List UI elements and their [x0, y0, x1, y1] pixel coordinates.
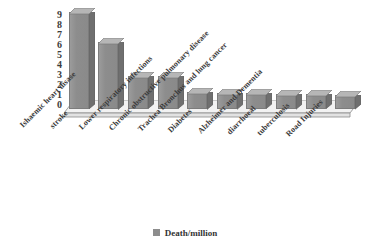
x-axis-label: stroke	[48, 109, 70, 131]
y-axis-tick: 4	[57, 61, 62, 69]
y-axis-tick: 5	[57, 51, 62, 59]
y-axis-tick: 6	[57, 41, 62, 49]
bar-column[interactable]	[335, 95, 355, 109]
bar-column[interactable]	[69, 12, 89, 109]
bar-column[interactable]	[187, 92, 207, 109]
bar-top-face	[98, 38, 124, 43]
bar-body	[187, 92, 207, 109]
legend-swatch-icon	[153, 229, 160, 236]
bar-body	[335, 95, 355, 109]
y-axis-tick: 8	[57, 21, 62, 29]
bar-body	[69, 12, 89, 109]
y-axis-tick: 0	[57, 101, 62, 109]
bar-front-face	[69, 12, 89, 109]
legend-label: Death/million	[165, 228, 218, 238]
y-axis-tick: 9	[57, 11, 62, 19]
chart-container: 9 8 7 6 5 4 3 2 1 0 Ishaemic heart disas…	[0, 0, 370, 247]
x-axis-labels: Ishaemic heart disasestrokeLower respira…	[0, 112, 370, 204]
bar-top-face	[187, 88, 213, 93]
y-axis-tick: 7	[57, 31, 62, 39]
bar-side-face	[89, 12, 95, 109]
bar-top-face	[276, 90, 302, 95]
bar-top-face	[335, 91, 361, 96]
chart-legend: Death/million	[0, 222, 370, 240]
bar-top-face	[69, 8, 95, 13]
bar-top-face	[306, 90, 332, 95]
bar-side-face	[118, 42, 124, 110]
bar-top-face	[246, 89, 272, 94]
